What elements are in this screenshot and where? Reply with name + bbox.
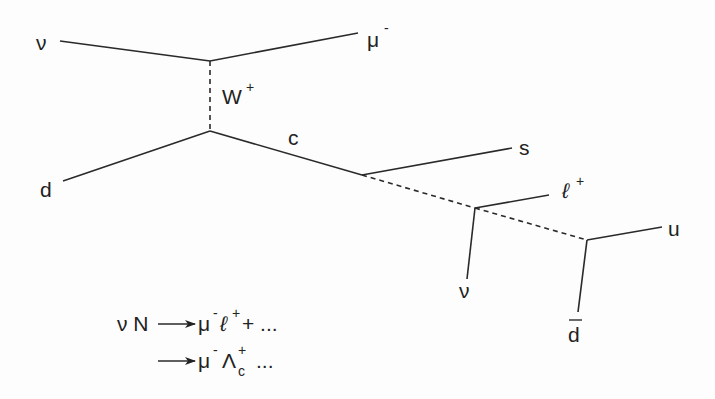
- label-muon-charge: -: [384, 20, 389, 36]
- down-quark-line: [63, 131, 210, 181]
- label-w-boson: W: [222, 85, 242, 108]
- up-quark-line: [587, 227, 662, 240]
- eq1-lhs: ν N: [117, 312, 149, 335]
- eq2-baryon: Λ: [222, 349, 236, 372]
- eq1-muon: μ: [198, 312, 210, 335]
- label-w-charge: +: [246, 79, 254, 95]
- label-lepton-charge: +: [576, 173, 584, 189]
- eq1-muon-charge: -: [213, 305, 218, 321]
- lepton-line: [475, 195, 549, 208]
- label-charm-quark: c: [288, 126, 299, 149]
- anti-down-quark-line: [578, 240, 587, 312]
- eq2-tail: ...: [256, 349, 274, 372]
- neutrino-line: [60, 41, 210, 61]
- label-decay-neutrino: ν: [459, 279, 470, 302]
- eq2-muon-charge: -: [213, 342, 218, 358]
- strange-quark-line: [362, 148, 512, 175]
- label-anti-down-quark: d: [568, 323, 580, 346]
- w-propagator-hadronic: [475, 208, 587, 240]
- label-incoming-neutrino: ν: [36, 31, 47, 54]
- eq1-tail: + ...: [242, 312, 278, 335]
- label-muon: μ: [367, 28, 379, 51]
- decay-neutrino-line: [467, 208, 475, 279]
- charm-quark-line: [210, 131, 362, 175]
- muon-line: [210, 33, 358, 61]
- eq1-lepton-charge: +: [232, 305, 240, 321]
- w-propagator-charm: [362, 175, 475, 208]
- eq2-baryon-sub: c: [238, 363, 245, 379]
- label-down-quark: d: [40, 178, 52, 201]
- eq2-baryon-charge: +: [238, 342, 246, 358]
- label-up-quark: u: [668, 217, 680, 240]
- eq2-muon: μ: [198, 349, 210, 372]
- label-strange-quark: s: [519, 136, 530, 159]
- eq1-lepton: ℓ: [219, 312, 228, 335]
- feynman-diagram: ν μ - W + d c s ℓ + ν u d ν N μ - ℓ + + …: [0, 0, 715, 399]
- label-lepton: ℓ: [561, 179, 570, 202]
